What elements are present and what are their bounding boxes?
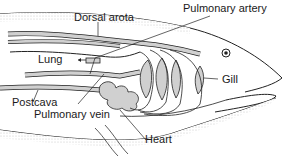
label-dorsal-aorta: Dorsal arota (74, 12, 134, 23)
heart (99, 82, 138, 111)
label-postcava: Postcava (12, 97, 57, 108)
label-lung: Lung (38, 54, 62, 65)
leader-gill (204, 78, 218, 79)
lung-vessel (10, 51, 140, 57)
lung (86, 58, 100, 63)
fish-snout (245, 78, 282, 92)
label-pulmonary-artery: Pulmonary artery (183, 3, 267, 14)
leader-heart (120, 110, 146, 140)
label-gill: Gill (222, 74, 238, 85)
fish-circulation-diagram: Dorsal arota Pulmonary artery Lung Gill … (0, 0, 283, 158)
fish-illustration (0, 0, 283, 158)
label-heart: Heart (145, 134, 172, 145)
label-pulmonary-vein: Pulmonary vein (34, 109, 110, 120)
